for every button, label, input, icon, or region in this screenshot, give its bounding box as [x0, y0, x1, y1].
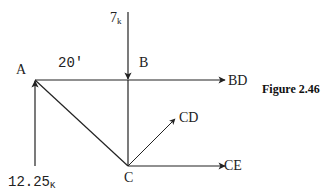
dimension-label: 20' [58, 55, 83, 71]
force-label-cd: CD [179, 110, 198, 125]
force-label-bd: BD [228, 73, 247, 88]
reaction-label: 12.25K [8, 174, 56, 191]
force-label-ce: CE [224, 158, 242, 173]
figure-caption: Figure 2.46 [262, 82, 320, 97]
load-label-7k: 7k [110, 10, 122, 26]
node-label-a: A [16, 62, 27, 77]
node-label-c: C [124, 170, 133, 185]
node-label-b: B [139, 55, 148, 70]
member-ac [35, 80, 128, 166]
force-arrow-cd [128, 119, 175, 166]
